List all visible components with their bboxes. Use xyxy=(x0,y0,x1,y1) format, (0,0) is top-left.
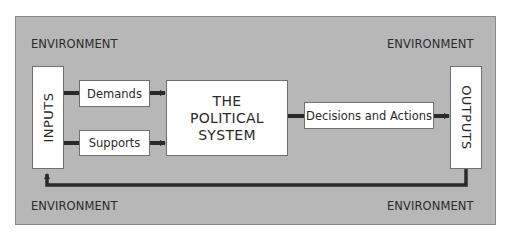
inputs-box: INPUTS xyxy=(32,66,64,169)
inputs-label: INPUTS xyxy=(41,92,56,142)
demands-label: Demands xyxy=(87,87,142,101)
decisions-label: Decisions and Actions xyxy=(306,109,432,123)
decisions-box: Decisions and Actions xyxy=(304,102,434,129)
political-system-box: THE POLITICAL SYSTEM xyxy=(166,80,288,156)
outputs-box: OUTPUTS xyxy=(450,66,482,169)
supports-label: Supports xyxy=(89,136,140,150)
system-line-1: THE xyxy=(213,93,242,110)
system-line-2: POLITICAL xyxy=(190,110,264,127)
demands-box: Demands xyxy=(79,80,150,107)
feedback-arrow xyxy=(47,169,466,185)
outputs-label: OUTPUTS xyxy=(459,85,474,150)
supports-box: Supports xyxy=(79,130,150,156)
system-line-3: SYSTEM xyxy=(198,127,256,144)
